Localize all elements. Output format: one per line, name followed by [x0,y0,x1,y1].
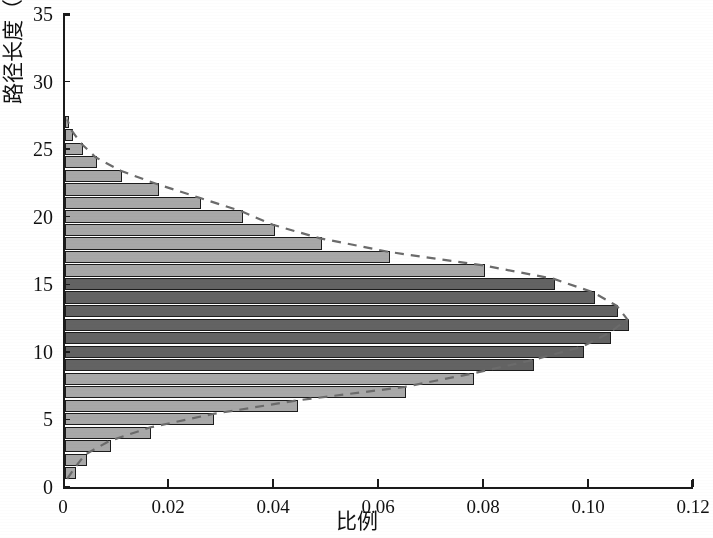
x-tick [692,479,694,487]
x-axis-title: 比例 [0,504,713,534]
y-tick-label: 15 [5,274,53,294]
x-axis-line [63,487,693,489]
y-tick [63,486,70,488]
y-tick-label: 10 [5,342,53,362]
x-tick [377,479,379,487]
y-tick-label: 20 [5,207,53,227]
y-tick-label: 0 [5,477,53,497]
y-axis-title: 路径长度（L） [0,0,26,150]
y-tick-label: 5 [5,409,53,429]
y-tick [63,13,70,15]
y-tick [63,216,70,218]
x-tick [167,479,169,487]
y-tick [63,81,70,83]
y-axis-title-prefix: 路径长度（ [1,0,25,104]
x-tick [272,479,274,487]
x-tick [587,479,589,487]
y-tick [63,148,70,150]
histogram-figure: 05101520253035 00.020.040.060.080.100.12… [0,0,713,538]
y-tick [63,284,70,286]
x-tick [482,479,484,487]
y-tick [63,351,70,353]
plot-area: 05101520253035 00.020.040.060.080.100.12 [63,14,693,487]
y-tick [63,419,70,421]
fitted-curve [63,14,693,487]
